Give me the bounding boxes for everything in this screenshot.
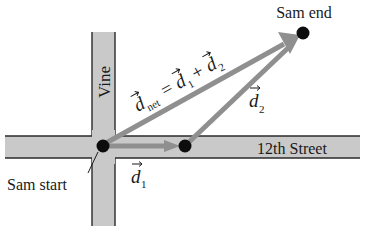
d1-subscript: 1 [141,178,147,190]
vector-d2-shaft [188,48,288,143]
start-point [97,140,110,153]
vine-street [92,32,115,226]
vector-d2 [188,48,288,143]
sam-start-label: Sam start [7,176,68,193]
d2-subscript: 2 [259,103,265,115]
sam-end-label: Sam end [276,4,332,21]
vector-addition-diagram: Vine 12th Street Sam end Sam start d 1 d… [0,0,368,226]
end-point [297,27,310,40]
d2-symbol: d [249,90,259,111]
vine-road-surface [92,32,115,226]
twelfth-street-label: 12th Street [257,140,327,157]
d1-label: d 1 [131,162,147,191]
intermediate-point [179,140,192,153]
vine-label: Vine [95,66,114,98]
d1-symbol: d [131,166,141,187]
d2-label: d 2 [249,86,265,116]
